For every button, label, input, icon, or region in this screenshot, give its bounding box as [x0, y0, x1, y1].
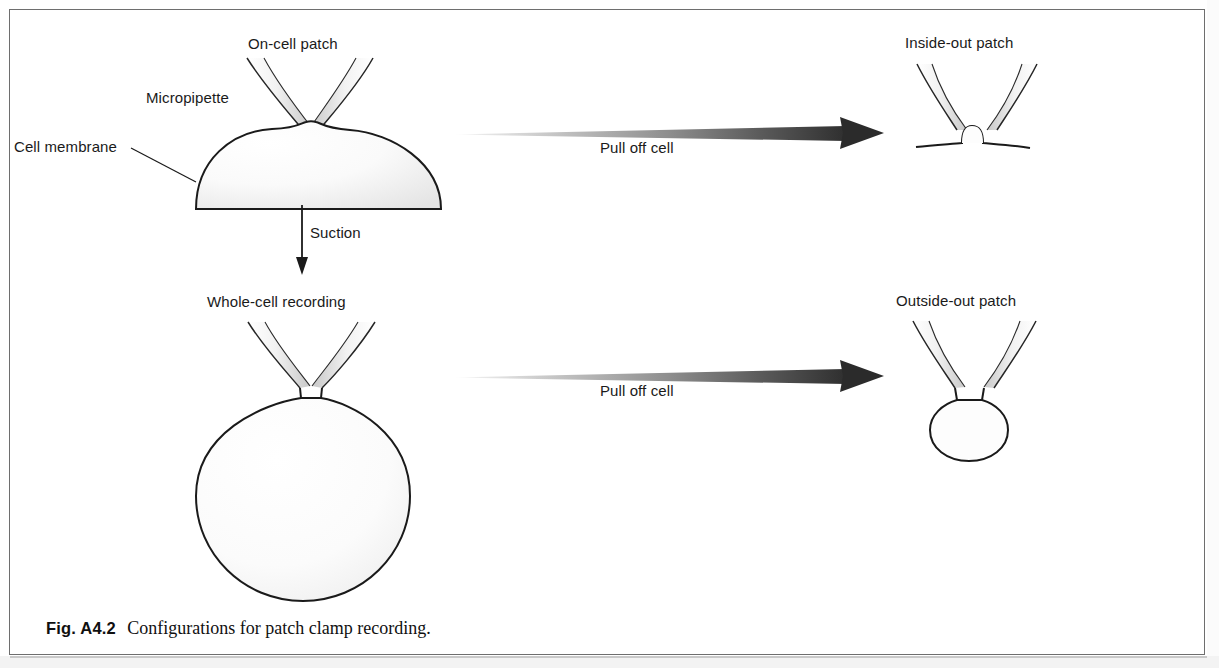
- label-pull-off-cell-top: Pull off cell: [600, 139, 674, 156]
- frame-shadow: [10, 656, 1207, 658]
- page-margin-right: [1207, 0, 1219, 668]
- label-pull-off-cell-bottom: Pull off cell: [600, 382, 674, 399]
- label-cell-membrane: Cell membrane: [14, 138, 117, 155]
- figure-caption: Fig. A4.2 Configurations for patch clamp…: [46, 618, 431, 639]
- label-micropipette: Micropipette: [146, 89, 229, 106]
- label-inside-out-patch: Inside-out patch: [905, 34, 1013, 51]
- label-outside-out-patch: Outside-out patch: [896, 292, 1016, 309]
- label-whole-cell-recording: Whole-cell recording: [207, 293, 346, 310]
- label-on-cell-patch: On-cell patch: [248, 35, 338, 52]
- figure-caption-text: Configurations for patch clamp recording…: [127, 618, 430, 638]
- figure-container: On-cell patch Micropipette Cell membrane…: [0, 0, 1219, 668]
- figure-number: Fig. A4.2: [46, 619, 116, 637]
- label-suction: Suction: [310, 224, 361, 241]
